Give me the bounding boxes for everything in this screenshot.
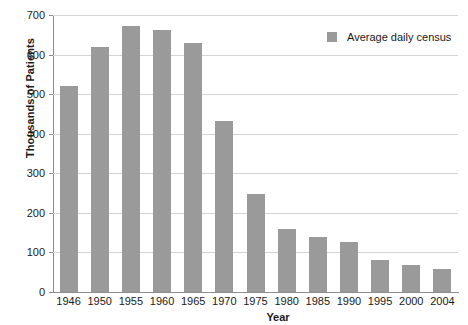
bar-1985 bbox=[309, 237, 327, 292]
bar-1965 bbox=[184, 43, 202, 292]
y-tick-label: 700 bbox=[5, 10, 45, 21]
legend-label-average-daily-census: Average daily census bbox=[347, 31, 451, 43]
bar-2000 bbox=[402, 265, 420, 292]
bar-1960 bbox=[153, 30, 171, 292]
y-tick-label: 400 bbox=[5, 129, 45, 140]
bar-chart: Thousands of Patients 700600500400300200… bbox=[0, 0, 468, 325]
y-tick-label: 200 bbox=[5, 208, 45, 219]
bar-2004 bbox=[433, 269, 451, 292]
x-axis-title-text: Year bbox=[266, 311, 289, 323]
y-tick-label: 300 bbox=[5, 168, 45, 179]
bar-1955 bbox=[122, 26, 140, 292]
bar-1946 bbox=[60, 86, 78, 292]
bar-1980 bbox=[278, 229, 296, 292]
y-tick-label: 600 bbox=[5, 50, 45, 61]
x-axis-title: Year bbox=[0, 311, 468, 323]
legend-swatch-average-daily-census bbox=[327, 32, 337, 42]
x-axis-line bbox=[53, 292, 459, 293]
x-tick-label-2004: 2004 bbox=[422, 296, 462, 307]
bar-1970 bbox=[215, 121, 233, 292]
y-tick-label: 100 bbox=[5, 247, 45, 258]
bars-group bbox=[53, 15, 458, 292]
bar-1950 bbox=[91, 47, 109, 292]
bar-1995 bbox=[371, 260, 389, 292]
y-tick-label: 500 bbox=[5, 89, 45, 100]
legend: Average daily census bbox=[327, 31, 451, 43]
bar-1975 bbox=[247, 194, 265, 292]
y-tick-label: 0 bbox=[5, 287, 45, 298]
bar-1990 bbox=[340, 242, 358, 292]
